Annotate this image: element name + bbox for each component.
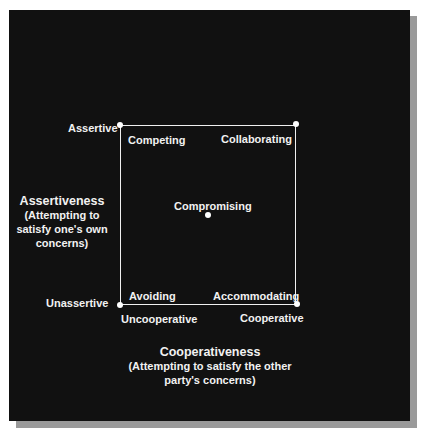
assertiveness-subtitle-line-3: concerns): [12, 236, 112, 250]
unassertive-label: Unassertive: [46, 297, 108, 310]
assertive-label: Assertive: [68, 122, 118, 135]
uncooperative-label: Uncooperative: [121, 313, 197, 326]
cooperativeness-axis-title: Cooperativeness (Attempting to satisfy t…: [110, 345, 310, 387]
corner-dot-top-right: [293, 121, 299, 127]
mode-accommodating: Accommodating: [213, 290, 299, 303]
mode-competing: Competing: [128, 134, 185, 147]
assertiveness-title: Assertiveness: [12, 194, 112, 208]
mode-collaborating: Collaborating: [221, 133, 292, 146]
corner-dot-top-left: [117, 122, 123, 128]
cooperativeness-subtitle-line-2: party's concerns): [110, 373, 310, 387]
corner-dot-bottom-left: [117, 302, 123, 308]
mode-compromising: Compromising: [174, 200, 252, 213]
assertiveness-axis-title: Assertiveness (Attempting to satisfy one…: [12, 194, 112, 250]
cooperativeness-subtitle-line-1: (Attempting to satisfy the other: [110, 359, 310, 373]
mode-avoiding: Avoiding: [129, 290, 176, 303]
cooperative-label: Cooperative: [240, 312, 304, 325]
assertiveness-subtitle-line-1: (Attempting to: [12, 208, 112, 222]
cooperativeness-title: Cooperativeness: [110, 345, 310, 359]
assertiveness-subtitle-line-2: satisfy one's own: [12, 222, 112, 236]
